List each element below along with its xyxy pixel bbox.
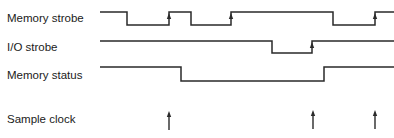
rising-edge-arrow-icon [167,13,171,19]
rising-edge-arrow-icon [310,42,314,48]
waveform-i-o-strobe [100,41,394,53]
rising-edge-arrow-icon [373,13,377,19]
waveform-memory-status [100,67,394,81]
sample-clock-arrow-icon [373,110,377,129]
sample-clock-arrow-icon [167,111,171,130]
waveforms [0,0,394,138]
waveform-memory-strobe [100,12,394,25]
sample-clock-arrow-icon [311,110,315,129]
rising-edge-arrow-icon [229,13,233,19]
timing-diagram: Memory strobe I/O strobe Memory status S… [0,0,394,138]
